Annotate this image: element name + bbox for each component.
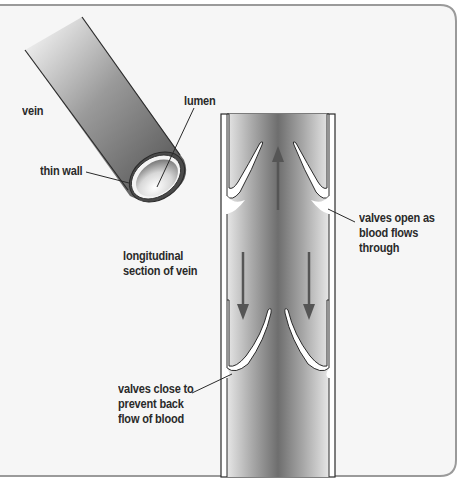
valves-open-label: valves open as blood flows through xyxy=(359,211,435,256)
valves-close-line-1: valves close to xyxy=(118,382,194,397)
longitudinal-section-line-1: longitudinal xyxy=(123,249,197,264)
longitudinal-section-label: longitudinal section of vein xyxy=(123,249,197,279)
valves-open-line-2: blood flows xyxy=(359,226,435,241)
valves-open-line-3: through xyxy=(359,241,435,256)
thin-wall-label: thin wall xyxy=(40,164,82,179)
valves-close-line-2: prevent back xyxy=(118,397,194,412)
valves-close-label: valves close to prevent back flow of blo… xyxy=(118,382,194,427)
longitudinal-section-line-2: section of vein xyxy=(123,264,197,279)
vein-label: vein xyxy=(22,104,43,119)
valves-open-line-1: valves open as xyxy=(359,211,435,226)
valves-close-line-3: flow of blood xyxy=(118,412,194,427)
lumen-label: lumen xyxy=(184,94,216,109)
